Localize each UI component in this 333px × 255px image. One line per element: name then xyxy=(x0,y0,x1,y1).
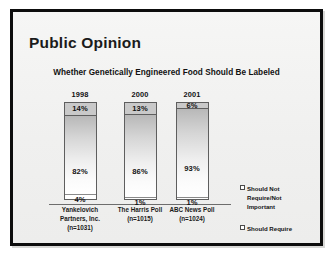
legend-swatch-icon xyxy=(240,225,245,230)
chart-plot-area: 1998 14% 82% 4% Yankelovich Partners, In… xyxy=(35,90,303,240)
bar-segment-label: 1% xyxy=(125,199,156,207)
bar-segment-should-require: 93% xyxy=(177,109,208,198)
bar-segment-should-not-require: 14% xyxy=(65,103,96,116)
x-axis-category-label: Yankelovich Partners, Inc. (n=1031) xyxy=(53,205,107,232)
bar-segment-label: 13% xyxy=(132,105,148,113)
stacked-bar[interactable]: 6% 93% 1% xyxy=(176,102,209,200)
page-title: Public Opinion xyxy=(29,34,141,52)
legend-swatch-icon xyxy=(240,185,245,190)
x-axis-category-label: ABC News Poll (n=1024) xyxy=(165,205,219,223)
bar-segment-label: 86% xyxy=(132,168,148,176)
legend-item-should-not-require[interactable]: Should Not Require/Not Important xyxy=(240,184,282,211)
stacked-bar[interactable]: 14% 82% 4% xyxy=(64,102,97,200)
bar-group: 2001 6% 93% 1% ABC News Poll (n=1024) xyxy=(165,90,219,223)
bar-segment-label: 14% xyxy=(72,105,88,113)
bar-segment-label: 1% xyxy=(177,199,208,207)
slide-content: Public Opinion Whether Genetically Engin… xyxy=(13,12,320,243)
legend-item-label: Should Require xyxy=(247,224,292,233)
bar-segment-label: 82% xyxy=(72,168,88,176)
bar-year-label: 2000 xyxy=(113,90,167,99)
bar-segment-should-require: 82% xyxy=(65,116,96,195)
bar-segment-label: 4% xyxy=(65,196,96,204)
x-axis-category-label: The Harris Poll (n=1015) xyxy=(113,205,167,223)
slide-frame: Public Opinion Whether Genetically Engin… xyxy=(10,9,323,246)
bar-year-label: 2001 xyxy=(165,90,219,99)
legend-item-label: Should Not Require/Not Important xyxy=(247,184,282,211)
bar-group: 1998 14% 82% 4% Yankelovich Partners, In… xyxy=(53,90,107,232)
chart-title: Whether Genetically Engineered Food Shou… xyxy=(13,68,320,77)
bar-segment-no-opinion: 1% xyxy=(177,198,208,199)
bar-group: 2000 13% 86% 1% The Harris Poll (n=1015) xyxy=(113,90,167,223)
stacked-bar[interactable]: 13% 86% 1% xyxy=(124,102,157,200)
slide-page: Public Opinion Whether Genetically Engin… xyxy=(0,0,333,255)
bar-segment-label: 93% xyxy=(184,165,200,173)
bar-segment-no-opinion: 4% xyxy=(65,195,96,199)
bar-year-label: 1998 xyxy=(53,90,107,99)
bar-segment-should-not-require: 13% xyxy=(125,103,156,115)
bar-segment-no-opinion: 1% xyxy=(125,198,156,199)
legend-item-should-require[interactable]: Should Require xyxy=(240,224,292,233)
bar-segment-should-require: 86% xyxy=(125,115,156,198)
